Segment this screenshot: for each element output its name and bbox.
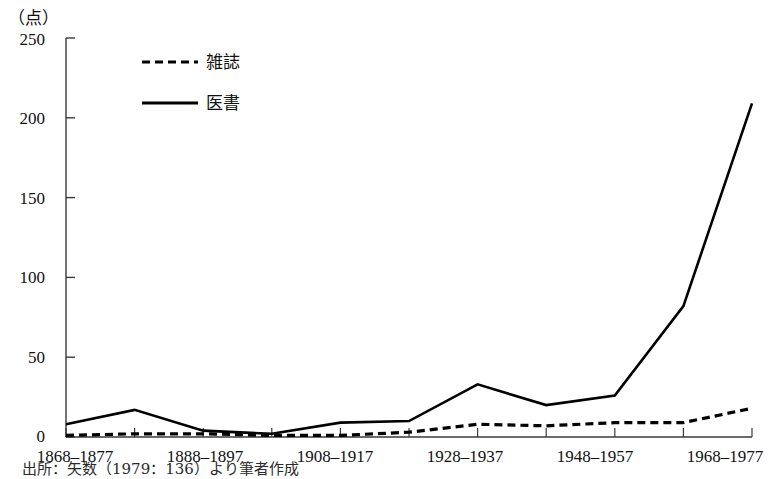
y-axis-ticks (66, 38, 75, 437)
legend-swatches (142, 62, 198, 103)
axis-lines (66, 38, 752, 437)
series-line-医書 (66, 103, 752, 433)
data-series-group (66, 103, 752, 435)
figure-chart: （点） 250 200 150 100 50 0 1868–1877 1888–… (0, 0, 772, 479)
plot-area (0, 0, 772, 479)
